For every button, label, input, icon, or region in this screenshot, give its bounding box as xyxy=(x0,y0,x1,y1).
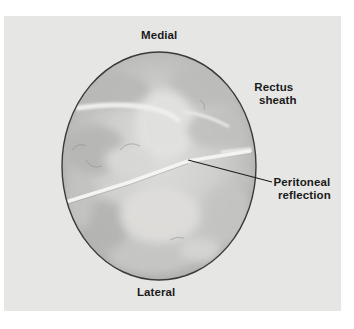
label-peritoneal-reflection-line2: reflection xyxy=(273,189,331,202)
label-lateral: Lateral xyxy=(137,286,175,299)
label-rectus-sheath: Rectus sheath xyxy=(251,81,297,107)
endoscopic-field xyxy=(62,52,256,280)
label-medial: Medial xyxy=(141,29,177,42)
label-peritoneal-reflection: Peritoneal reflection xyxy=(273,176,331,202)
label-peritoneal-reflection-line1: Peritoneal xyxy=(273,176,331,189)
label-rectus-sheath-line1: Rectus xyxy=(251,81,297,94)
label-rectus-sheath-line2: sheath xyxy=(251,94,297,107)
endoscopic-view-illustration xyxy=(0,0,354,329)
